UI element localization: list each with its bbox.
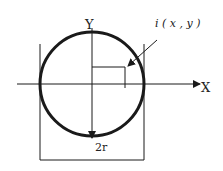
point-label: i ( x , y )	[155, 17, 201, 30]
circle-coordinate-diagram: Y X i ( x , y ) 2r	[0, 0, 223, 171]
y-axis-label: Y	[84, 17, 94, 32]
diameter-label: 2r	[95, 141, 108, 154]
x-axis-label: X	[201, 80, 211, 95]
